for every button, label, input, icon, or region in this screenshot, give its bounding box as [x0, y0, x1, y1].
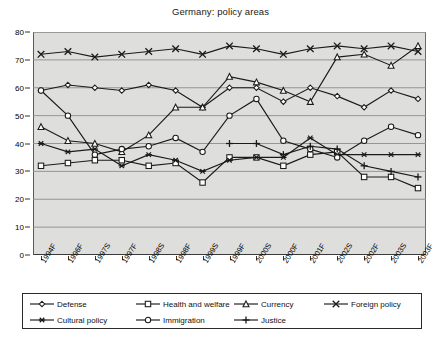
y-tick-mark [25, 199, 30, 200]
legend-label: Currency [259, 300, 293, 309]
marker-circle [281, 138, 286, 143]
legend-label: Cultural policy [55, 316, 107, 325]
marker-diamond [39, 301, 44, 306]
marker-square [227, 155, 232, 160]
marker-square [38, 163, 43, 168]
series-line [41, 91, 418, 158]
marker-diamond [146, 82, 151, 87]
marker-square [119, 158, 124, 163]
marker-square [146, 163, 151, 168]
y-tick-label: 0 [20, 251, 24, 260]
legend-label: Justice [259, 316, 286, 325]
y-tick-mark [25, 255, 30, 256]
legend-item-justice[interactable]: Justice [233, 312, 286, 328]
y-tick-label: 30 [15, 167, 24, 176]
marker-circle [92, 152, 97, 157]
legend-symbol-group [324, 301, 348, 308]
y-tick-label: 80 [15, 28, 24, 37]
marker-diamond [173, 88, 178, 93]
marker-circle [335, 155, 340, 160]
marker-square [65, 160, 70, 165]
marker-diamond [65, 82, 70, 87]
marker-square [145, 301, 150, 306]
marker-square [200, 180, 205, 185]
legend-marker-cross-icon [323, 297, 349, 311]
legend-item-defense[interactable]: Defense [29, 296, 87, 312]
marker-diamond [388, 88, 393, 93]
legend-item-currency[interactable]: Currency [233, 296, 293, 312]
marker-circle [415, 132, 420, 137]
legend-symbol-group [30, 318, 54, 322]
y-tick-mark [25, 115, 30, 116]
marker-square [308, 152, 313, 157]
y-tick-label: 10 [15, 223, 24, 232]
y-tick-label: 50 [15, 111, 24, 120]
legend-label: Defense [55, 300, 87, 309]
marker-diamond [308, 85, 313, 90]
marker-circle [38, 88, 43, 93]
plot-area [33, 32, 426, 255]
legend-label: Foreign policy [349, 300, 401, 309]
legend-marker-triangle-icon [233, 297, 259, 311]
series-line [41, 46, 418, 152]
marker-square [92, 158, 97, 163]
y-tick-label: 60 [15, 83, 24, 92]
legend-label: Immigration [161, 316, 205, 325]
legend-row: DefenseHealth and welfareCurrencyForeign… [23, 296, 421, 312]
marker-diamond [281, 99, 286, 104]
legend-symbol-group [30, 301, 54, 306]
x-axis: 1994F1996F1997S1997F1998S1998F1999S1999F… [33, 256, 426, 290]
legend-symbol-group [136, 317, 160, 322]
legend-item-foreign-policy[interactable]: Foreign policy [323, 296, 401, 312]
y-tick-mark [25, 227, 30, 228]
marker-diamond [361, 105, 366, 110]
marker-circle [146, 144, 151, 149]
marker-diamond [335, 93, 340, 98]
legend-marker-asterisk-icon [29, 313, 55, 327]
legend-symbol-group [136, 301, 160, 306]
marker-circle [200, 149, 205, 154]
plot-series-svg [33, 32, 426, 255]
legend-symbol-group [234, 317, 258, 324]
legend-marker-diamond-icon [29, 297, 55, 311]
marker-circle [119, 146, 124, 151]
marker-diamond [254, 85, 259, 90]
marker-circle [173, 135, 178, 140]
marker-square [388, 174, 393, 179]
y-tick-mark [25, 87, 30, 88]
marker-circle [227, 113, 232, 118]
legend-label: Health and welfare [161, 300, 230, 309]
marker-square [281, 163, 286, 168]
y-tick-mark [25, 143, 30, 144]
legend-row: Cultural policyImmigrationJustice [23, 312, 421, 328]
y-tick-mark [25, 32, 30, 33]
legend-item-immigration[interactable]: Immigration [135, 312, 205, 328]
y-tick-mark [25, 171, 30, 172]
marker-diamond [119, 88, 124, 93]
y-tick-label: 20 [15, 195, 24, 204]
y-axis: 01020304050607080 [0, 32, 30, 255]
chart-legend: DefenseHealth and welfareCurrencyForeign… [22, 293, 422, 329]
marker-triangle [415, 43, 421, 49]
marker-circle [388, 124, 393, 129]
marker-circle [65, 113, 70, 118]
marker-square [415, 185, 420, 190]
series-defense [38, 82, 420, 110]
legend-marker-plus-icon [233, 313, 259, 327]
legend-marker-square-icon [135, 297, 161, 311]
y-tick-label: 40 [15, 139, 24, 148]
marker-triangle [307, 99, 313, 105]
legend-marker-circle-icon [135, 313, 161, 327]
y-tick-mark [25, 59, 30, 60]
marker-square [361, 174, 366, 179]
chart-title: Germany: policy areas [0, 6, 441, 17]
y-tick-label: 70 [15, 55, 24, 64]
marker-triangle [227, 74, 233, 80]
legend-item-cultural-policy[interactable]: Cultural policy [29, 312, 107, 328]
marker-circle [254, 96, 259, 101]
marker-circle [361, 138, 366, 143]
chart-container: Germany: policy areas 01020304050607080 … [0, 0, 441, 343]
legend-item-health-and-welfare[interactable]: Health and welfare [135, 296, 230, 312]
marker-diamond [92, 85, 97, 90]
marker-circle [145, 317, 150, 322]
